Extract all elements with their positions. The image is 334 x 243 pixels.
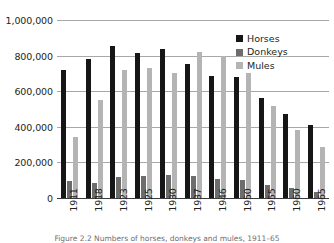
y-axis-tick: 1,000,000: [0, 16, 53, 26]
x-axis-tick-group: 1925: [131, 199, 156, 235]
bar-horses-1923: [110, 46, 115, 198]
bar-mules-1925: [147, 68, 152, 198]
x-axis-tick-group: 1965: [304, 199, 329, 235]
y-axis-tick: 200,000: [0, 158, 53, 168]
bar-horses-1946: [209, 76, 214, 198]
x-axis-tick-group: 1923: [106, 199, 131, 235]
bar-group: [205, 20, 230, 198]
x-axis-tick-1946: 1946: [218, 188, 228, 211]
x-axis-tick-1918: 1918: [94, 188, 104, 211]
y-axis-tick: 0: [0, 194, 53, 204]
bar-mules-1930: [172, 73, 177, 198]
bar-group: [131, 20, 156, 198]
x-axis-tick-1930: 1930: [168, 188, 178, 211]
legend-swatch-horses-icon: [236, 35, 243, 42]
bar-horses-1955: [259, 98, 264, 198]
x-axis-tick-1937: 1937: [193, 188, 203, 211]
x-axis-tick-group: 1930: [156, 199, 181, 235]
bar-mules-1955: [271, 106, 276, 198]
legend-label-mules: Mules: [247, 61, 275, 71]
bar-mules-1918: [98, 100, 103, 198]
bar-group: [156, 20, 181, 198]
bar-horses-1937: [185, 64, 190, 198]
x-axis-tick-1955: 1955: [267, 188, 277, 211]
bar-group: [304, 20, 329, 198]
x-axis-tick-1960: 1960: [292, 188, 302, 211]
bar-horses-1918: [86, 59, 91, 198]
bar-mules-1937: [197, 52, 202, 198]
y-axis-tick: 600,000: [0, 87, 53, 97]
bar-mules-1950: [246, 73, 251, 198]
bar-groups: [57, 20, 329, 198]
bar-mules-1946: [221, 56, 226, 198]
x-axis-tick-1925: 1925: [144, 188, 154, 211]
legend-item-donkeys: Donkeys: [236, 47, 288, 58]
x-axis-tick-labels: 1911191819231925193019371946195019551960…: [57, 199, 329, 235]
legend-label-horses: Horses: [247, 34, 280, 44]
x-axis-tick-group: 1950: [230, 199, 255, 235]
bar-horses-1950: [234, 77, 239, 198]
legend: Horses Donkeys Mules: [236, 33, 288, 71]
x-axis-tick-1965: 1965: [317, 188, 327, 211]
y-axis-tick: 800,000: [0, 52, 53, 62]
x-axis-tick-1911: 1911: [69, 188, 79, 211]
legend-swatch-mules-icon: [236, 62, 243, 69]
figure-caption: Figure 2.2 Numbers of horses, donkeys an…: [0, 234, 334, 243]
bar-horses-1930: [160, 49, 165, 198]
bar-horses-1960: [283, 114, 288, 198]
bar-group: [181, 20, 206, 198]
bar-horses-1911: [61, 70, 66, 198]
y-axis-tick: 400,000: [0, 123, 53, 133]
x-axis-tick-1923: 1923: [119, 188, 129, 211]
bar-group: [57, 20, 82, 198]
bar-group: [82, 20, 107, 198]
bar-horses-1965: [308, 125, 313, 198]
legend-item-mules: Mules: [236, 60, 288, 71]
x-axis-tick-group: 1937: [181, 199, 206, 235]
bar-group: [106, 20, 131, 198]
x-axis-tick-group: 1918: [82, 199, 107, 235]
x-axis-tick-group: 1946: [205, 199, 230, 235]
bar-horses-1925: [135, 53, 140, 198]
legend-label-donkeys: Donkeys: [247, 47, 288, 57]
x-axis-tick-1950: 1950: [243, 188, 253, 211]
x-axis-tick-group: 1911: [57, 199, 82, 235]
plot-area: [57, 20, 329, 198]
bar-mules-1923: [122, 70, 127, 198]
x-axis-tick-group: 1960: [280, 199, 305, 235]
legend-item-horses: Horses: [236, 33, 288, 44]
legend-swatch-donkeys-icon: [236, 49, 243, 56]
x-axis-tick-group: 1955: [255, 199, 280, 235]
